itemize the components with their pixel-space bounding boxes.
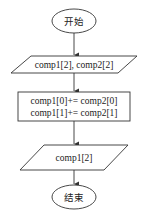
output-label: comp1[2] <box>56 153 93 163</box>
output-parallelogram: comp1[2] <box>20 145 128 170</box>
end-terminal: 结束 <box>52 185 96 209</box>
process-line-1: comp1[0]+= comp2[0] <box>31 96 118 106</box>
start-terminal: 开始 <box>52 9 96 33</box>
input-parallelogram: comp1[2], comp2[2] <box>11 56 137 73</box>
input-label: comp1[2], comp2[2] <box>35 60 114 70</box>
start-label: 开始 <box>64 16 84 27</box>
process-box: comp1[0]+= comp2[0] comp1[1]+= comp2[1] <box>18 92 130 121</box>
flowchart: 开始 comp1[2], comp2[2] comp1[0]+= comp2[0… <box>0 0 148 219</box>
end-label: 结束 <box>64 192 84 203</box>
process-line-2: comp1[1]+= comp2[1] <box>31 108 118 118</box>
